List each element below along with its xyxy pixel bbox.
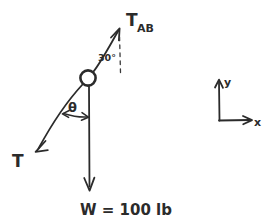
coordinate-axes-key: y x <box>215 76 261 129</box>
ring-particle <box>80 70 95 85</box>
force-tab-shaft <box>94 31 119 72</box>
force-vector-t: T <box>12 85 83 172</box>
y-axis-line <box>219 82 220 121</box>
free-body-diagram: T T AB 30° W = 100 lb <box>0 0 270 224</box>
angle-30-label: 30° <box>98 52 116 63</box>
force-tab-label-subscript: AB <box>137 22 154 35</box>
x-axis-line <box>219 120 250 121</box>
x-axis-label: x <box>254 116 261 129</box>
force-weight-shaft <box>89 87 90 187</box>
y-axis-label: y <box>224 76 231 89</box>
force-vector-weight: W = 100 lb <box>80 87 172 220</box>
diagram-canvas: T T AB 30° W = 100 lb <box>0 0 270 224</box>
angle-annotation-30: 30° <box>98 52 116 63</box>
vertical-reference-dashed-line <box>120 35 121 73</box>
ring-outline <box>80 70 95 85</box>
force-t-label: T <box>12 151 24 171</box>
theta-label: θ <box>68 100 77 115</box>
force-weight-label: W = 100 lb <box>80 201 172 219</box>
